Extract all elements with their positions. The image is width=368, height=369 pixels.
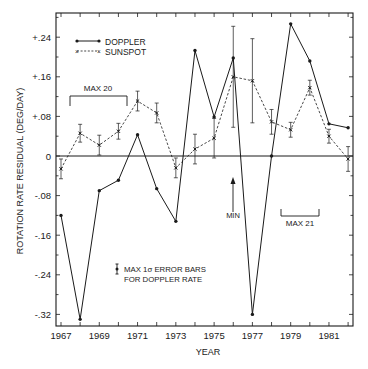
x-tick-label: 1969 bbox=[89, 330, 110, 341]
x-axis-label: YEAR bbox=[196, 347, 221, 357]
max20-annotation: MAX 20 bbox=[70, 84, 127, 106]
min-annotation: MIN bbox=[226, 177, 240, 220]
doppler-marker bbox=[193, 49, 196, 52]
legend-doppler-marker bbox=[75, 39, 78, 42]
min-label: MIN bbox=[226, 211, 240, 220]
note-line1: MAX 1σ ERROR BARS bbox=[124, 265, 206, 274]
doppler-line bbox=[61, 24, 348, 320]
y-axis-label: ROTATION RATE RESIDUAL (DEG/DAY) bbox=[15, 88, 25, 255]
doppler-marker bbox=[98, 189, 101, 192]
doppler-marker bbox=[232, 56, 235, 59]
x-axis: 19671969197119731975197719791981 bbox=[50, 13, 348, 341]
x-tick-label: 1975 bbox=[204, 330, 225, 341]
x-tick-label: 1967 bbox=[50, 330, 71, 341]
plot-border bbox=[56, 13, 353, 326]
doppler-marker bbox=[117, 179, 120, 182]
error-bar-icon-dot bbox=[116, 268, 119, 271]
doppler-marker bbox=[174, 220, 177, 223]
doppler-marker bbox=[136, 133, 139, 136]
doppler-marker bbox=[78, 318, 81, 321]
max21-bracket bbox=[281, 209, 319, 216]
doppler-marker bbox=[327, 122, 330, 125]
x-tick-label: 1981 bbox=[318, 330, 339, 341]
doppler-error-note: MAX 1σ ERROR BARS FOR DOPPLER RATE bbox=[116, 264, 206, 284]
doppler-series bbox=[59, 22, 350, 321]
doppler-marker bbox=[155, 187, 158, 190]
doppler-marker bbox=[270, 154, 273, 157]
y-tick-label: -.32 bbox=[35, 309, 51, 320]
legend-sunspot-marker: × bbox=[97, 48, 101, 55]
y-tick-label: +.16 bbox=[32, 71, 51, 82]
x-tick-label: 1977 bbox=[242, 330, 263, 341]
max21-annotation: MAX 21 bbox=[281, 209, 319, 228]
y-tick-label: -.16 bbox=[35, 230, 51, 241]
legend-sunspot-label: SUNSPOT bbox=[105, 47, 146, 57]
y-tick-label: 0 bbox=[46, 151, 51, 162]
y-tick-label: +.08 bbox=[32, 111, 51, 122]
legend: DOPPLER × × SUNSPOT bbox=[75, 37, 146, 57]
legend-sunspot-marker: × bbox=[75, 48, 79, 55]
x-tick-label: 1979 bbox=[280, 330, 301, 341]
min-arrow-head-icon bbox=[231, 177, 236, 184]
doppler-marker bbox=[251, 313, 254, 316]
doppler-marker bbox=[59, 214, 62, 217]
y-tick-label: -.24 bbox=[35, 269, 51, 280]
note-line2: FOR DOPPLER RATE bbox=[124, 275, 202, 284]
doppler-marker bbox=[308, 59, 311, 62]
rotation-residual-chart: +.24+.16+.080-.08-.16-.24-.32 1967196919… bbox=[0, 0, 368, 369]
max20-label: MAX 20 bbox=[84, 84, 113, 93]
y-tick-label: -.08 bbox=[35, 190, 51, 201]
max20-bracket bbox=[70, 96, 127, 106]
plot-frame bbox=[56, 13, 353, 326]
x-tick-label: 1971 bbox=[127, 330, 148, 341]
y-tick-label: +.24 bbox=[32, 32, 51, 43]
x-tick-label: 1973 bbox=[165, 330, 186, 341]
legend-doppler-marker bbox=[97, 39, 100, 42]
doppler-marker bbox=[212, 115, 215, 118]
doppler-marker bbox=[346, 126, 349, 129]
max21-label: MAX 21 bbox=[286, 219, 315, 228]
doppler-marker bbox=[289, 22, 292, 25]
legend-doppler-label: DOPPLER bbox=[105, 37, 146, 47]
